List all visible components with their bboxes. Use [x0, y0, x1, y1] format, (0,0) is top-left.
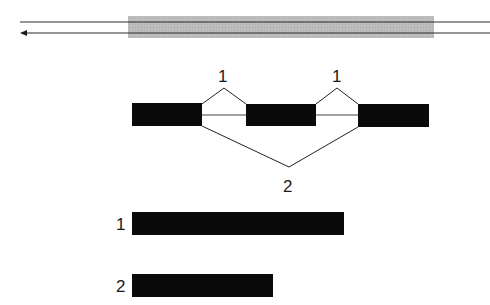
mrna-products: 1 2	[116, 212, 344, 297]
gene-region-shade	[128, 16, 434, 38]
pre-mrna	[132, 103, 429, 127]
product-bar-1	[132, 212, 344, 235]
product-label-1: 1	[116, 215, 125, 234]
splice-junction-1b	[316, 88, 358, 104]
exon-3	[358, 104, 429, 127]
splice-junction-1a	[202, 88, 246, 104]
splice-pattern-1: 1 1	[202, 67, 358, 104]
exon-2	[246, 104, 316, 126]
arrow-left-icon	[20, 30, 27, 36]
exon-1	[132, 103, 202, 126]
product-bar-2	[132, 274, 273, 297]
splice-label-2: 2	[283, 177, 292, 196]
alternative-splicing-diagram: 1 1 2 1 2	[0, 0, 490, 305]
splice-label-1a: 1	[218, 67, 227, 86]
product-label-2: 2	[116, 277, 125, 296]
splice-label-1b: 1	[332, 67, 341, 86]
dna-strands	[20, 16, 490, 38]
splice-junction-2	[202, 126, 358, 167]
splice-pattern-2: 2	[202, 126, 358, 196]
